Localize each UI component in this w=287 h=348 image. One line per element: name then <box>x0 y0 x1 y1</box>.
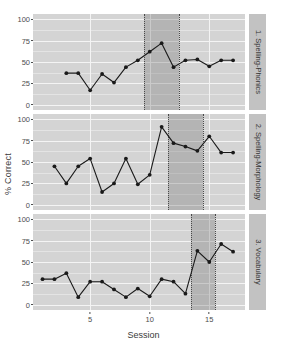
y-tick-label: 0 <box>26 100 30 109</box>
data-series <box>33 114 245 210</box>
facet-panel-2: 02550751002. Spelling-Morphology <box>0 114 266 210</box>
facet-strip-label: 3. Vocabulary <box>249 214 266 310</box>
x-axis-title: Session <box>0 330 287 340</box>
facet-strip-text: 1. Spelling-Phonics <box>253 30 262 94</box>
facet-strip-text: 3. Vocabulary <box>253 239 262 284</box>
y-axis-ticks: 0255075100 <box>0 114 33 210</box>
facet-strip-label: 1. Spelling-Phonics <box>249 14 266 110</box>
multiple-baseline-chart: % Correct 02550751001. Spelling-Phonics0… <box>0 0 287 348</box>
y-tick-label: 75 <box>22 236 30 245</box>
y-tick-label: 0 <box>26 300 30 309</box>
y-tick-label: 100 <box>17 115 30 124</box>
x-tick-label: 5 <box>88 315 92 324</box>
facet-panel-1: 02550751001. Spelling-Phonics <box>0 14 266 110</box>
facet-strip-label: 2. Spelling-Morphology <box>249 114 266 210</box>
y-axis-ticks: 0255075100 <box>0 214 33 310</box>
y-tick-label: 25 <box>22 79 30 88</box>
y-tick-label: 25 <box>22 279 30 288</box>
x-axis-ticks: 51015 <box>33 315 245 327</box>
y-tick-label: 50 <box>22 158 30 167</box>
facet-panel-3: 02550751003. Vocabulary <box>0 214 266 310</box>
plot-area <box>33 214 245 310</box>
x-tick-label: 10 <box>146 315 154 324</box>
y-tick-label: 75 <box>22 136 30 145</box>
data-series <box>33 214 245 310</box>
y-tick-label: 50 <box>22 258 30 267</box>
y-tick-label: 25 <box>22 179 30 188</box>
y-tick-label: 75 <box>22 36 30 45</box>
plot-area <box>33 114 245 210</box>
y-tick-label: 0 <box>26 200 30 209</box>
y-tick-label: 100 <box>17 215 30 224</box>
plot-area <box>33 14 245 110</box>
x-tick-label: 15 <box>205 315 213 324</box>
y-tick-label: 50 <box>22 58 30 67</box>
facet-strip-text: 2. Spelling-Morphology <box>253 124 262 201</box>
y-axis-ticks: 0255075100 <box>0 14 33 110</box>
data-series <box>33 14 245 110</box>
y-tick-label: 100 <box>17 15 30 24</box>
